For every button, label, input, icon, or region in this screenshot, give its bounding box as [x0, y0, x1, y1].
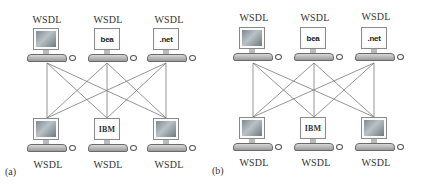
keyboard-icon: [294, 143, 334, 151]
monitor-icon: .net: [153, 28, 179, 50]
mouse-icon: [397, 144, 404, 150]
node-label: WSDL: [356, 157, 396, 168]
computer-node-dotnet: .net: [147, 28, 201, 68]
keyboard-icon: [27, 144, 67, 152]
computer-node-dotnet: .net: [355, 27, 409, 67]
mouse-icon: [336, 144, 343, 150]
node-label: WSDL: [149, 14, 189, 25]
monitor-icon: [33, 118, 59, 140]
computer-node-cloud: [147, 118, 201, 158]
keyboard-icon: [233, 53, 273, 61]
keyboard-icon: [147, 144, 187, 152]
panel-a: WSDL WSDL bea WSDL .net WSDL IBM WSDL WS…: [0, 0, 210, 187]
computer-node-cloud: [27, 118, 81, 158]
node-label: WSDL: [27, 14, 67, 25]
node-label: WSDL: [28, 159, 68, 170]
keyboard-icon: [294, 53, 334, 61]
computer-node-ibm: IBM: [294, 117, 348, 157]
computer-node-cloud: [233, 117, 287, 157]
computer-node-bea: bea: [88, 28, 142, 68]
keyboard-icon: [355, 143, 395, 151]
monitor-icon: [33, 28, 59, 50]
mouse-icon: [69, 55, 76, 61]
panel-label: (b): [212, 165, 224, 176]
mouse-icon: [69, 145, 76, 151]
mouse-icon: [275, 144, 282, 150]
keyboard-icon: [88, 144, 128, 152]
cloud-screen-icon: [156, 121, 176, 137]
mouse-icon: [397, 54, 404, 60]
computer-node-bea: bea: [294, 27, 348, 67]
computer-node-ibm: IBM: [88, 118, 142, 158]
ibm-logo-icon: IBM: [97, 121, 117, 137]
cloud-screen-icon: [36, 121, 56, 137]
keyboard-icon: [27, 54, 67, 62]
panel-label: (a): [5, 166, 16, 177]
dotnet-logo-icon: .net: [364, 30, 384, 46]
monitor-icon: [361, 117, 387, 139]
keyboard-icon: [355, 53, 395, 61]
bea-logo-icon: bea: [97, 31, 117, 47]
cloud-screen-icon: [242, 120, 262, 136]
monitor-icon: .net: [361, 27, 387, 49]
monitor-icon: IBM: [300, 117, 326, 139]
monitor-icon: [153, 118, 179, 140]
computer-node-cloud: [355, 117, 409, 157]
keyboard-icon: [88, 54, 128, 62]
ibm-logo-icon: IBM: [303, 120, 323, 136]
monitor-icon: IBM: [94, 118, 120, 140]
node-label: WSDL: [88, 14, 128, 25]
node-label: WSDL: [234, 12, 274, 23]
dotnet-logo-icon: .net: [156, 31, 176, 47]
node-label: WSDL: [295, 12, 335, 23]
mouse-icon: [336, 54, 343, 60]
monitor-icon: [239, 27, 265, 49]
monitor-icon: bea: [94, 28, 120, 50]
keyboard-icon: [233, 143, 273, 151]
bea-logo-icon: bea: [303, 30, 323, 46]
mouse-icon: [189, 145, 196, 151]
mouse-icon: [130, 55, 137, 61]
mouse-icon: [275, 54, 282, 60]
mouse-icon: [130, 145, 137, 151]
node-label: WSDL: [149, 159, 189, 170]
monitor-icon: bea: [300, 27, 326, 49]
computer-node-cloud: [27, 28, 81, 68]
cloud-screen-icon: [364, 120, 384, 136]
computer-node-cloud: [233, 27, 287, 67]
monitor-icon: [239, 117, 265, 139]
panel-b: WSDL WSDL bea WSDL .net WSDL IBM WSDL WS…: [207, 0, 417, 187]
node-label: WSDL: [88, 159, 128, 170]
node-label: WSDL: [234, 157, 274, 168]
cloud-screen-icon: [242, 30, 262, 46]
keyboard-icon: [147, 54, 187, 62]
cloud-screen-icon: [36, 31, 56, 47]
mouse-icon: [189, 55, 196, 61]
node-label: WSDL: [356, 11, 396, 22]
node-label: WSDL: [296, 157, 336, 168]
